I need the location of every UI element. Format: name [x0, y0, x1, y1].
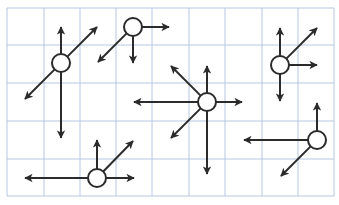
vector-diagram	[0, 0, 339, 205]
node-1-circle	[52, 54, 70, 72]
node-5-circle	[88, 169, 106, 187]
node-6-circle	[308, 131, 326, 149]
node-3-circle	[198, 93, 216, 111]
node-4-circle	[271, 56, 289, 74]
node-2-circle	[124, 18, 142, 36]
